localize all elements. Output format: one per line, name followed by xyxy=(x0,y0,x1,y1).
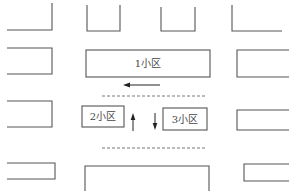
arrow-left-icon xyxy=(123,83,160,88)
block-row2-left xyxy=(7,48,52,74)
arrow-up-icon xyxy=(131,113,136,131)
arrow-down-icon xyxy=(153,113,158,130)
block-1-label: 1小区 xyxy=(135,58,161,69)
block-row2-right xyxy=(237,50,289,77)
block-3-label: 3小区 xyxy=(172,114,198,125)
block-bottom-center xyxy=(85,166,209,191)
block-top-center-left xyxy=(87,5,120,31)
block-top-left xyxy=(7,3,52,30)
block-top-right xyxy=(232,5,282,31)
block-row3-left xyxy=(7,101,52,127)
block-bottom-right xyxy=(244,164,289,181)
block-bottom-left xyxy=(7,163,55,179)
block-top-center-right xyxy=(161,7,195,31)
block-row3-right xyxy=(237,110,289,130)
block-2-label: 2小区 xyxy=(90,111,116,122)
street-map-diagram: 1小区 2小区 3小区 xyxy=(0,0,289,191)
